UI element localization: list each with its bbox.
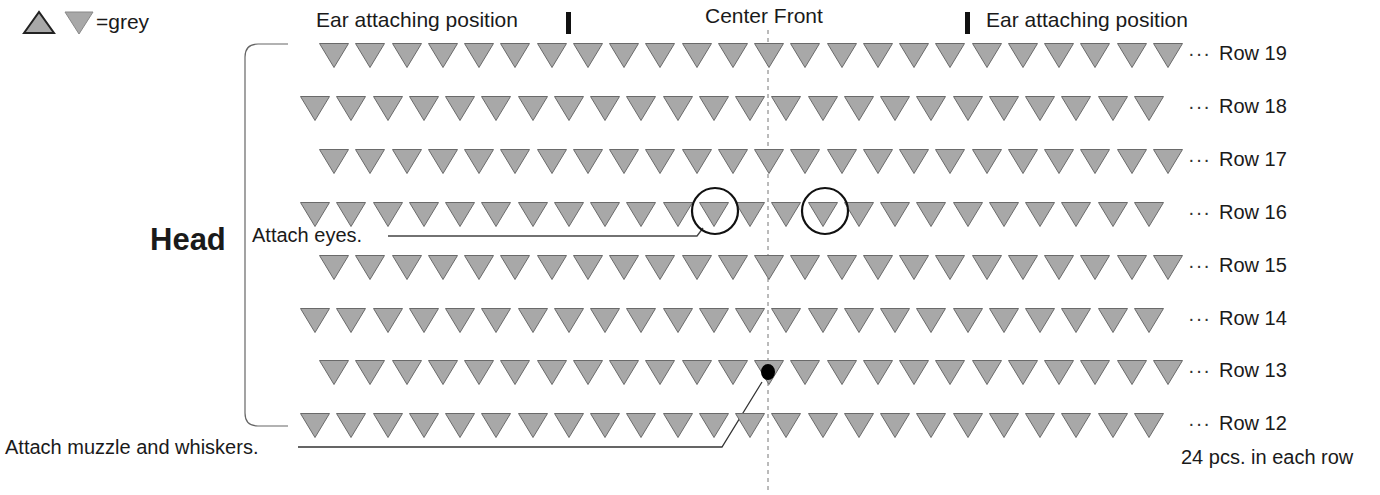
triangle-down-icon xyxy=(336,96,366,121)
triangle-down-icon xyxy=(1025,202,1055,227)
triangle-down-icon xyxy=(500,360,530,385)
row-label: ···Row 17 xyxy=(1188,148,1287,171)
triangle-down-icon xyxy=(972,360,1002,385)
row-dots: ··· xyxy=(1188,307,1211,329)
triangle-down-icon xyxy=(1008,43,1038,68)
triangle-down-icon xyxy=(663,96,693,121)
triangle-down-icon xyxy=(682,255,712,280)
row-label: ···Row 16 xyxy=(1188,201,1287,224)
triangle-down-icon xyxy=(663,413,693,438)
triangle-down-icon xyxy=(1080,149,1110,174)
triangle-down-icon xyxy=(481,202,511,227)
triangle-down-icon xyxy=(880,96,910,121)
triangle-down-icon xyxy=(609,43,639,68)
triangle-down-icon xyxy=(645,360,675,385)
triangle-down-icon xyxy=(300,96,330,121)
triangle-down-icon xyxy=(735,96,765,121)
triangle-down-icon xyxy=(590,308,620,333)
triangle-down-icon xyxy=(355,255,385,280)
triangle-down-icon xyxy=(392,149,422,174)
attach-muzzle-note: Attach muzzle and whiskers. xyxy=(5,436,258,459)
triangle-down-icon xyxy=(626,96,656,121)
triangle-down-icon xyxy=(500,43,530,68)
triangle-down-icon xyxy=(1098,96,1128,121)
triangle-down-icon xyxy=(972,255,1002,280)
triangle-down-icon xyxy=(1134,96,1164,121)
triangle-down-icon xyxy=(609,149,639,174)
row-dots: ··· xyxy=(1188,359,1211,381)
triangle-down-icon xyxy=(663,308,693,333)
triangle-down-icon xyxy=(428,43,458,68)
triangle-down-icon xyxy=(409,413,439,438)
triangle-down-icon xyxy=(373,96,403,121)
triangle-down-icon xyxy=(899,360,929,385)
triangle-down-icon xyxy=(1025,308,1055,333)
triangle-down-icon xyxy=(989,96,1019,121)
triangle-down-icon xyxy=(554,96,584,121)
triangle-down-icon xyxy=(355,360,385,385)
triangle-down-icon xyxy=(718,360,748,385)
triangle-down-icon xyxy=(754,149,784,174)
row-dots: ··· xyxy=(1188,254,1211,276)
triangle-down-icon xyxy=(1117,255,1147,280)
row-label: ···Row 18 xyxy=(1188,95,1287,118)
triangle-down-icon xyxy=(319,149,349,174)
triangle-down-icon xyxy=(590,413,620,438)
triangle-down-icon xyxy=(863,255,893,280)
row-dots: ··· xyxy=(1188,95,1211,117)
triangle-down-icon xyxy=(790,255,820,280)
triangle-down-icon xyxy=(1098,308,1128,333)
triangle-down-icon xyxy=(554,202,584,227)
triangle-down-icon xyxy=(319,255,349,280)
triangle-down-icon xyxy=(428,149,458,174)
triangle-down-icon xyxy=(1044,255,1074,280)
triangle-down-icon xyxy=(481,96,511,121)
triangle-down-icon xyxy=(573,43,603,68)
triangle-down-icon xyxy=(790,360,820,385)
triangle-down-icon xyxy=(699,413,729,438)
row-dots: ··· xyxy=(1188,148,1211,170)
triangle-down-icon xyxy=(626,413,656,438)
triangle-down-icon xyxy=(1080,43,1110,68)
row-label-text: Row 15 xyxy=(1219,254,1287,276)
triangle-down-icon xyxy=(373,308,403,333)
triangle-down-icon xyxy=(409,202,439,227)
triangle-down-icon xyxy=(808,96,838,121)
triangle-down-icon xyxy=(827,43,857,68)
triangle-down-icon xyxy=(1025,413,1055,438)
triangle-down-icon xyxy=(827,255,857,280)
triangle-down-icon xyxy=(392,360,422,385)
triangle-down-icon xyxy=(445,202,475,227)
triangle-down-icon xyxy=(754,43,784,68)
row-dots: ··· xyxy=(1188,42,1211,64)
triangle-down-icon xyxy=(916,96,946,121)
triangle-down-icon xyxy=(1117,360,1147,385)
triangle-down-icon xyxy=(428,255,458,280)
triangle-down-icon xyxy=(1098,202,1128,227)
triangle-down-icon xyxy=(518,202,548,227)
triangle-down-icon xyxy=(754,255,784,280)
triangle-down-icon xyxy=(392,43,422,68)
triangle-down-icon xyxy=(409,96,439,121)
triangle-down-icon xyxy=(373,202,403,227)
triangle-down-icon xyxy=(735,202,765,227)
row-label-text: Row 17 xyxy=(1219,148,1287,170)
triangle-down-icon xyxy=(537,149,567,174)
triangle-down-icon xyxy=(1044,149,1074,174)
triangle-down-icon xyxy=(844,413,874,438)
row-label: ···Row 14 xyxy=(1188,307,1287,330)
triangle-down-icon xyxy=(1008,360,1038,385)
row-label-text: Row 13 xyxy=(1219,359,1287,381)
triangle-down-icon xyxy=(590,202,620,227)
triangle-down-icon xyxy=(392,255,422,280)
triangle-down-icon xyxy=(319,360,349,385)
triangle-down-icon xyxy=(863,149,893,174)
row-label-text: Row 14 xyxy=(1219,307,1287,329)
triangle-down-icon xyxy=(1134,413,1164,438)
triangle-down-icon xyxy=(972,43,1002,68)
triangle-down-icon xyxy=(409,308,439,333)
triangle-down-icon xyxy=(464,43,494,68)
triangle-down-icon xyxy=(735,413,765,438)
attach-eyes-note: Attach eyes. xyxy=(252,224,362,247)
triangle-down-icon xyxy=(989,413,1019,438)
